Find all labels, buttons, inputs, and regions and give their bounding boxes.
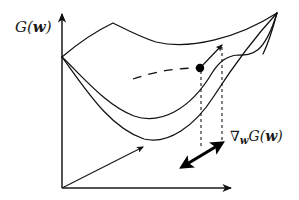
evaluation-group (196, 45, 222, 72)
gradient-label-close-paren: ) (277, 128, 282, 144)
drop-lines-group (201, 47, 222, 147)
y-axis-label-variable: w (33, 18, 46, 36)
depth-axis (62, 147, 143, 188)
gradient-surface-figure: G(w) ∇wG(w) (0, 0, 299, 200)
axes-group (62, 14, 231, 188)
top-surface-curve (62, 13, 277, 57)
y-axis-label-func: G (15, 18, 27, 36)
y-axis-label-close-paren: ) (46, 18, 52, 36)
gradient-vector-arrow (182, 143, 222, 167)
gradient-label-variable: w (265, 128, 277, 144)
right-surface-edge (263, 13, 277, 54)
y-axis-label: G(w) (15, 20, 52, 35)
surface-curves-group (62, 13, 277, 140)
hidden-dashed-curve (133, 68, 199, 79)
middle-surface-curve (62, 13, 277, 119)
bottom-surface-curve (62, 13, 277, 140)
gradient-label-func: G (248, 128, 259, 144)
nabla-icon: ∇ (230, 128, 240, 144)
gradient-label: ∇wG(w) (230, 129, 283, 146)
evaluation-point (196, 64, 204, 72)
